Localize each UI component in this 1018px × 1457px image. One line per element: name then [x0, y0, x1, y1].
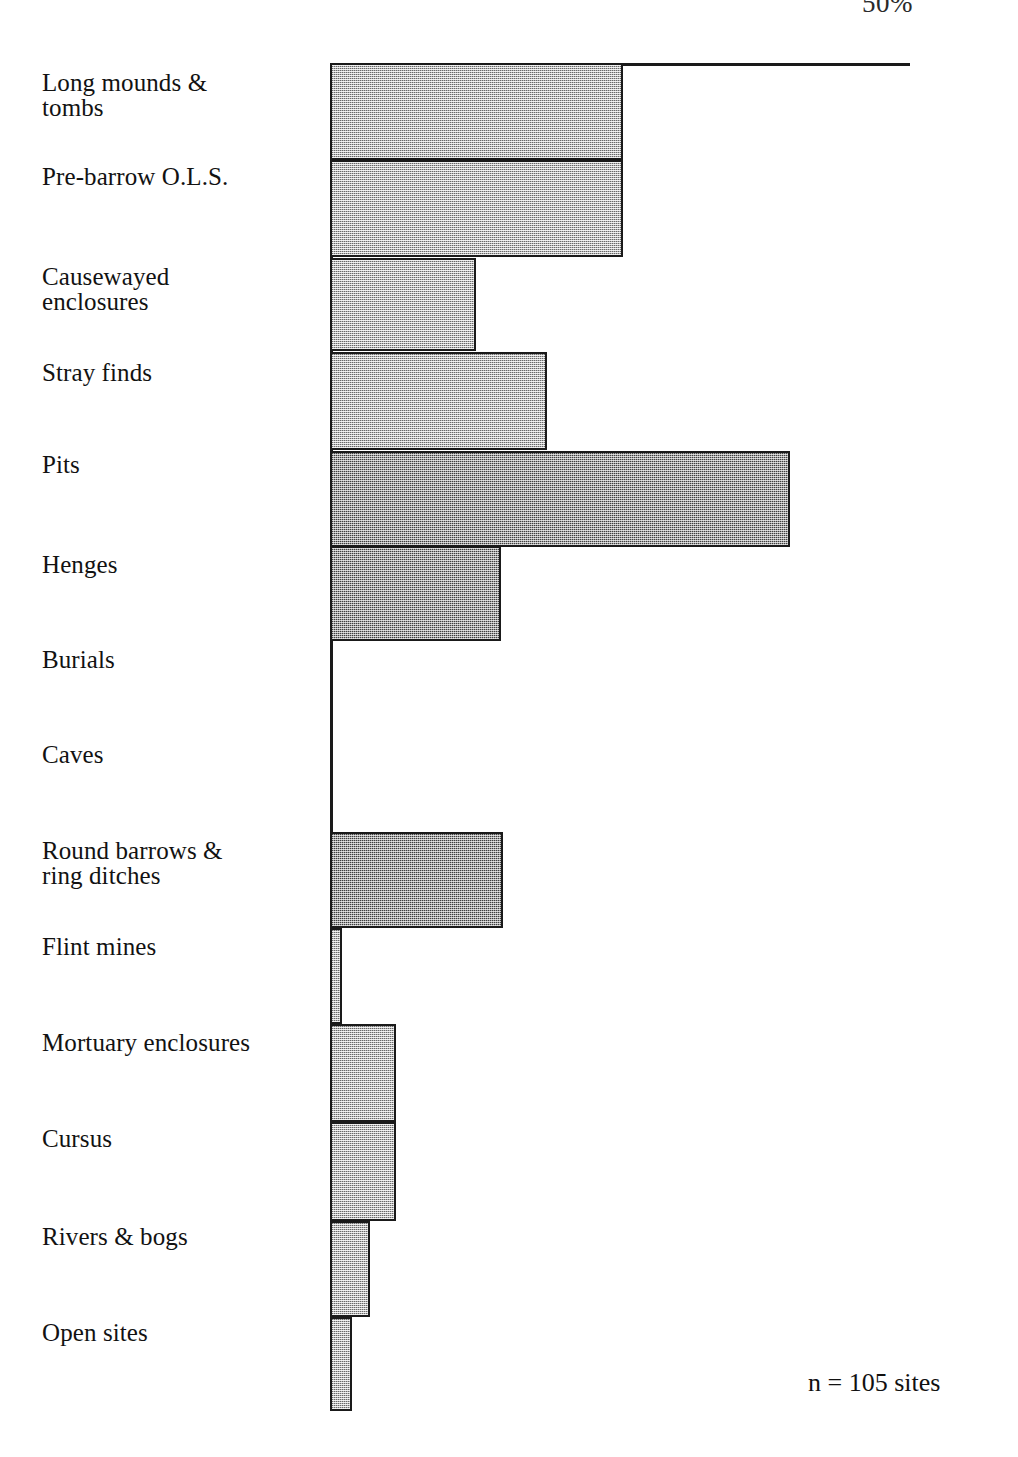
axis-tick-label-50-percent: 50%	[862, 0, 913, 19]
bar	[330, 928, 342, 1024]
bar	[330, 1122, 396, 1221]
bar	[330, 1317, 352, 1411]
plot-area	[0, 0, 1018, 1457]
top-axis-line	[623, 63, 910, 66]
bar	[330, 160, 623, 257]
bar	[330, 451, 790, 547]
bar	[330, 832, 503, 928]
bar	[330, 546, 501, 641]
bar	[330, 1221, 370, 1317]
bar	[330, 352, 547, 450]
bar	[330, 258, 476, 351]
bar	[330, 1024, 396, 1122]
sample-size-note: n = 105 sites	[808, 1368, 940, 1398]
bar-chart-figure: Long mounds & tombsPre-barrow O.L.S.Caus…	[0, 0, 1018, 1457]
bar	[330, 63, 623, 160]
